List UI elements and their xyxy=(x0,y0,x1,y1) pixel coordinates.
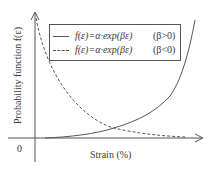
legend-condition: (β>0) xyxy=(153,30,175,42)
legend-condition: (β<0) xyxy=(153,44,175,56)
solid-line-icon xyxy=(53,36,69,37)
legend-item-beta-negative: f(ε)=α·exp(βε) (β<0) xyxy=(50,43,180,57)
legend-formula: f(ε)=α·exp(βε) xyxy=(75,30,149,42)
dashed-line-icon xyxy=(53,50,69,51)
legend: f(ε)=α·exp(βε) (β>0) f(ε)=α·exp(βε) (β<0… xyxy=(49,24,181,61)
y-axis-label: Probability function f(ε) xyxy=(12,21,23,131)
legend-item-beta-positive: f(ε)=α·exp(βε) (β>0) xyxy=(50,29,180,43)
origin-label: 0 xyxy=(17,143,22,154)
x-axis-label: Strain (%) xyxy=(90,149,131,160)
legend-formula: f(ε)=α·exp(βε) xyxy=(75,44,149,56)
